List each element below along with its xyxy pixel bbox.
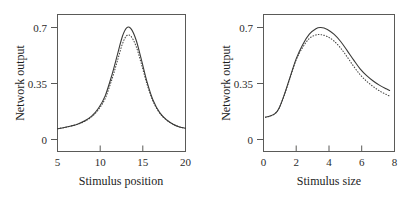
plot-frame-left [58,15,186,152]
x-ticklabel-0: 0 [261,156,267,168]
y-ticklabel-0: 0.7 [33,22,47,34]
figure-root: 0.7 0.35 0 5 10 15 20 Stimulus position … [0,0,415,200]
curve-dotted-left [58,35,186,129]
y-axis-ticks-right [257,28,264,140]
x-axis-ticks-right [264,146,395,152]
chart-panel-left: 0.7 0.35 0 5 10 15 20 Stimulus position … [0,0,207,200]
x-axis-ticks-left [58,146,186,152]
y-axis-label-left: Network output [13,45,27,121]
y-ticklabel-2: 0 [248,134,254,146]
x-ticklabel-1: 2 [293,156,299,168]
x-ticklabel-4: 8 [392,156,398,168]
plot-frame-right [264,15,395,152]
chart-panel-right: 0.7 0.35 0 0 2 4 6 8 Stimulus size Netwo… [208,0,415,200]
chart-svg-right: 0.7 0.35 0 0 2 4 6 8 Stimulus size Netwo… [208,0,415,200]
chart-svg-left: 0.7 0.35 0 5 10 15 20 Stimulus position … [0,0,207,200]
curve-solid-left [58,27,186,129]
y-ticklabel-1: 0.35 [234,78,254,90]
y-axis-label-right: Network output [219,45,233,121]
x-axis-label-right: Stimulus size [297,174,361,188]
x-ticklabel-2: 15 [137,156,149,168]
x-axis-label-left: Stimulus position [79,174,163,188]
y-axis-ticks-left [51,28,58,140]
x-ticklabel-2: 4 [326,156,332,168]
x-ticklabel-3: 6 [359,156,365,168]
x-ticklabel-0: 5 [55,156,61,168]
y-ticklabel-1: 0.35 [28,78,48,90]
x-ticklabel-1: 10 [95,156,107,168]
curve-dotted-right [265,34,389,117]
y-ticklabel-2: 0 [42,134,48,146]
y-ticklabel-0: 0.7 [239,22,253,34]
curve-solid-right [265,28,389,118]
x-ticklabel-3: 20 [180,156,192,168]
